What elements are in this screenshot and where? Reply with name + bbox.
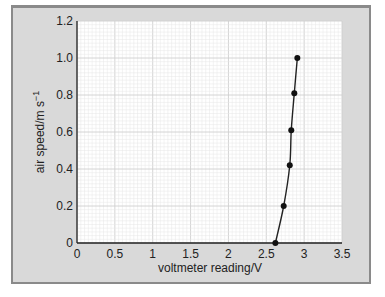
y-tick-labels: 00.20.40.60.81.01.2: [56, 14, 73, 250]
x-tick-label: 0.5: [107, 247, 124, 261]
data-point: [272, 240, 278, 246]
chart: 00.511.522.533.5 00.20.40.60.81.01.2 vol…: [0, 0, 385, 297]
x-axis-label: voltmeter reading/V: [158, 261, 262, 275]
x-tick-label: 2: [225, 247, 232, 261]
x-tick-label: 1: [149, 247, 156, 261]
x-tick-label: 3: [301, 247, 308, 261]
y-tick-label: 1.0: [56, 51, 73, 65]
data-point: [288, 127, 294, 133]
x-tick-label: 2.5: [258, 247, 275, 261]
y-tick-label: 0.8: [56, 88, 73, 102]
svg-text:air speed/m s−1: air speed/m s−1: [31, 91, 47, 173]
data-point: [294, 55, 300, 61]
x-tick-label: 3.5: [334, 247, 351, 261]
y-tick-label: 1.2: [56, 14, 73, 28]
x-tick-label: 0: [74, 247, 81, 261]
y-axis-label: air speed/m s−1: [31, 91, 47, 173]
x-tick-label: 1.5: [182, 247, 199, 261]
data-point: [287, 162, 293, 168]
y-tick-label: 0.6: [56, 125, 73, 139]
grid: [77, 21, 342, 243]
y-tick-label: 0: [66, 236, 73, 250]
y-axis-label-superscript: −1: [31, 91, 41, 101]
y-axis-label-text: air speed/m s: [33, 101, 47, 173]
y-tick-label: 0.4: [56, 162, 73, 176]
x-tick-labels: 00.511.522.533.5: [74, 247, 351, 261]
data-point: [281, 203, 287, 209]
y-tick-label: 0.2: [56, 199, 73, 213]
data-point: [291, 90, 297, 96]
